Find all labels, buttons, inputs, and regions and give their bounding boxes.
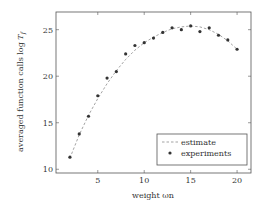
experiment-point: [96, 94, 99, 97]
experiment-point: [87, 115, 90, 118]
experiment-point: [68, 156, 71, 159]
legend-estimate-label: estimate: [181, 138, 216, 147]
experiment-point: [161, 31, 164, 34]
experiment-point: [198, 30, 201, 33]
experiment-point: [170, 26, 173, 29]
legend-experiments-marker: [168, 151, 171, 154]
y-tick-label: 25: [43, 26, 53, 35]
y-tick-label: 20: [43, 72, 53, 81]
x-tick-label: 5: [95, 176, 100, 185]
legend: estimate experiments: [157, 134, 247, 165]
experiment-point: [235, 48, 238, 51]
legend-experiments-label: experiments: [181, 149, 231, 158]
y-axis-label: averaged function calls log Tf: [16, 30, 27, 152]
experiment-point: [115, 70, 118, 73]
experiment-point: [133, 44, 136, 47]
experiment-point: [226, 38, 229, 41]
experiment-point: [105, 76, 108, 79]
experiment-point: [152, 36, 155, 39]
x-tick-label: 10: [139, 176, 149, 185]
experiment-point: [208, 26, 211, 29]
x-tick-label: 20: [232, 176, 242, 185]
experiment-point: [180, 28, 183, 31]
x-tick-label: 15: [186, 176, 196, 185]
experiment-point: [78, 132, 81, 135]
y-tick-label: 15: [43, 119, 53, 128]
chart: 510152010152025 estimate experiments wei…: [0, 0, 267, 211]
experiment-point: [143, 41, 146, 44]
y-tick-label: 10: [43, 165, 53, 174]
x-axis-label: weight ωn: [132, 191, 174, 200]
experiment-point: [189, 24, 192, 27]
experiment-point: [124, 52, 127, 55]
experiment-point: [217, 34, 220, 37]
